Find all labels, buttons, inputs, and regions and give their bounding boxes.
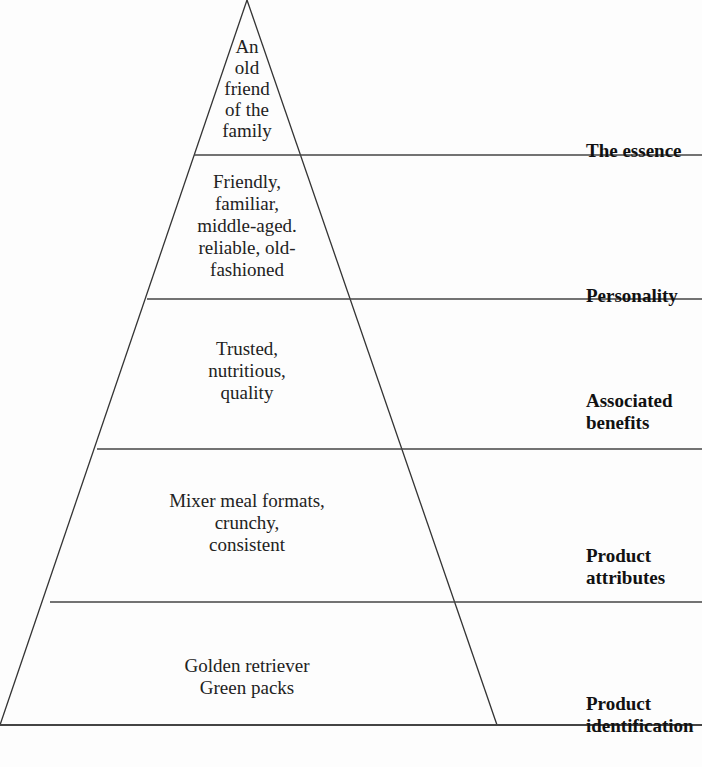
label-associated-benefits: Associated benefits bbox=[586, 390, 673, 434]
pyramid-lines bbox=[0, 0, 702, 767]
tier-attributes-content: Mixer meal formats, crunchy, consistent bbox=[122, 490, 372, 556]
label-personality: Personality bbox=[586, 285, 678, 307]
label-product-identification: Product identification bbox=[586, 693, 694, 737]
tier-personality-content: Friendly, familiar, middle-aged. reliabl… bbox=[172, 171, 322, 281]
brand-pyramid-diagram: An old friend of the family Friendly, fa… bbox=[0, 0, 702, 767]
tier-identification-content: Golden retriever Green packs bbox=[122, 655, 372, 699]
label-product-attributes: Product attributes bbox=[586, 545, 665, 589]
tier-benefits-content: Trusted, nutritious, quality bbox=[172, 338, 322, 404]
label-essence: The essence bbox=[586, 140, 682, 162]
tier-essence-content: An old friend of the family bbox=[197, 36, 297, 141]
